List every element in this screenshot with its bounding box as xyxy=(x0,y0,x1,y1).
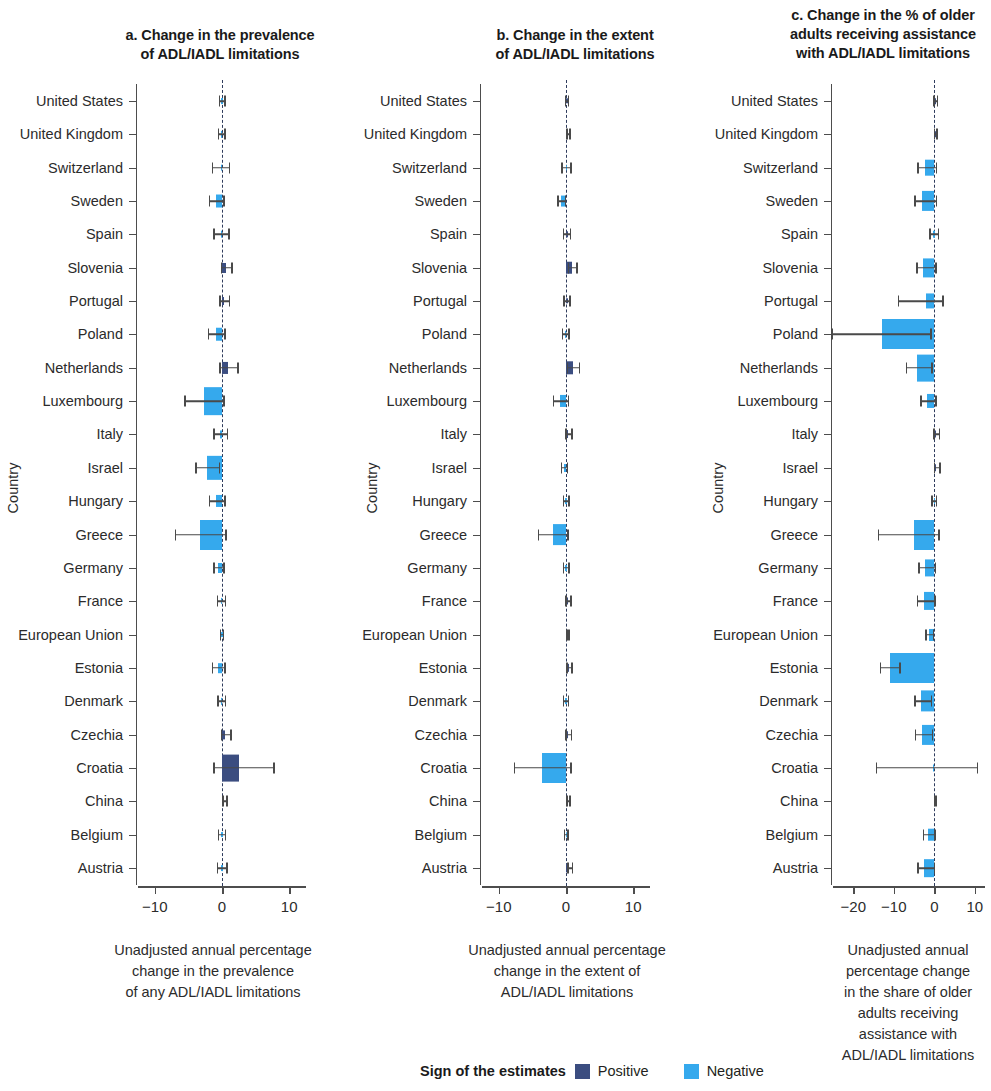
y-axis-label-portugal: Portugal xyxy=(242,294,467,308)
ci-cap xyxy=(932,729,934,740)
panel-b-xlabel-line-1: Unadjusted annual percentage xyxy=(452,940,682,961)
y-axis-tick xyxy=(129,434,136,435)
y-axis-label-european-union: European Union xyxy=(0,628,123,642)
ci-cap xyxy=(569,129,571,140)
y-axis-tick xyxy=(129,635,136,636)
ci-cap xyxy=(212,662,214,673)
ci-line-c-sweden xyxy=(914,200,935,202)
ci-line-c-poland xyxy=(831,334,930,336)
y-axis-tick xyxy=(473,735,480,736)
y-axis-tick xyxy=(129,368,136,369)
y-axis-tick xyxy=(824,168,831,169)
ci-cap xyxy=(935,562,937,573)
ci-cap xyxy=(228,229,230,240)
ci-cap xyxy=(563,562,565,573)
ci-cap xyxy=(227,429,229,440)
ci-cap xyxy=(195,462,197,473)
y-axis-label-hungary: Hungary xyxy=(0,494,123,508)
legend-label-negative: Negative xyxy=(707,1063,764,1079)
ci-cap xyxy=(184,396,186,407)
ci-cap xyxy=(936,496,938,507)
y-axis-tick xyxy=(473,368,480,369)
ci-cap xyxy=(213,429,215,440)
ci-cap xyxy=(208,329,210,340)
y-axis-label-china: China xyxy=(0,794,123,808)
ci-cap xyxy=(224,129,226,140)
ci-cap xyxy=(923,829,925,840)
ci-cap xyxy=(209,496,211,507)
ci-cap xyxy=(538,529,540,540)
y-axis-tick xyxy=(129,801,136,802)
x-axis-tick-label: 0 xyxy=(192,898,252,915)
ci-cap xyxy=(938,529,940,540)
ci-cap xyxy=(557,196,559,207)
ci-cap xyxy=(925,629,927,640)
ci-cap xyxy=(565,596,567,607)
ci-line-c-switzerland xyxy=(917,167,936,169)
panel-a-xlabel-line-3: of any ADL/IADL limitations xyxy=(98,982,328,1003)
ci-cap xyxy=(931,362,933,373)
panel-c-x-axis-line xyxy=(833,886,985,888)
y-axis-tick xyxy=(473,535,480,536)
legend-label-positive: Positive xyxy=(598,1063,649,1079)
ci-line-c-slovenia xyxy=(916,267,935,269)
x-axis-tick xyxy=(853,886,855,894)
ci-cap xyxy=(931,696,933,707)
y-axis-label-poland: Poland xyxy=(593,327,818,341)
legend-swatch-positive-icon xyxy=(575,1064,590,1079)
y-axis-label-portugal: Portugal xyxy=(0,294,123,308)
y-axis-tick xyxy=(129,668,136,669)
y-axis-label-netherlands: Netherlands xyxy=(0,361,123,375)
ci-cap xyxy=(568,629,570,640)
ci-cap xyxy=(920,396,922,407)
ci-cap xyxy=(229,296,231,307)
ci-cap xyxy=(878,529,880,540)
y-axis-tick xyxy=(824,835,831,836)
y-axis-label-hungary: Hungary xyxy=(242,494,467,508)
ci-line-a-netherlands xyxy=(219,367,237,369)
ci-cap xyxy=(220,629,222,640)
ci-cap xyxy=(570,229,572,240)
y-axis-tick xyxy=(824,868,831,869)
ci-cap xyxy=(219,96,221,107)
y-axis-tick xyxy=(129,468,136,469)
y-axis-tick xyxy=(824,535,831,536)
x-axis-tick-label: 10 xyxy=(945,898,991,915)
ci-line-c-portugal xyxy=(898,300,943,302)
y-axis-label-israel: Israel xyxy=(0,461,123,475)
y-axis-tick xyxy=(824,268,831,269)
panel-c-y-axis-line xyxy=(831,84,832,884)
ci-line-c-denmark xyxy=(914,701,931,703)
ci-cap xyxy=(977,762,979,773)
y-axis-tick xyxy=(824,701,831,702)
ci-cap xyxy=(230,729,232,740)
ci-line-b-croatia xyxy=(514,767,570,769)
x-axis-tick-label: 10 xyxy=(259,898,319,915)
ci-cap xyxy=(572,863,574,874)
y-axis-label-denmark: Denmark xyxy=(0,694,123,708)
y-axis-tick xyxy=(824,601,831,602)
ci-cap xyxy=(933,429,935,440)
panel-a-y-axis-line xyxy=(136,84,137,884)
y-axis-label-united-kingdom: United Kingdom xyxy=(0,127,123,141)
panel-b-y-axis-line xyxy=(480,84,481,884)
panel-b-title: b. Change in the extent of ADL/IADL limi… xyxy=(455,26,695,64)
ci-cap xyxy=(567,462,569,473)
y-axis-label-italy: Italy xyxy=(242,427,467,441)
y-axis-tick xyxy=(824,101,831,102)
y-axis-tick xyxy=(824,234,831,235)
ci-cap xyxy=(223,196,225,207)
y-axis-label-austria: Austria xyxy=(593,861,818,875)
ci-cap xyxy=(933,629,935,640)
y-axis-tick xyxy=(473,635,480,636)
ci-cap xyxy=(569,796,571,807)
ci-cap xyxy=(571,662,573,673)
panel-c-title-line-3: with ADL/IADL limitations xyxy=(775,44,991,63)
ci-cap xyxy=(935,262,937,273)
ci-cap xyxy=(568,329,570,340)
x-axis-tick xyxy=(289,886,291,894)
y-axis-label-italy: Italy xyxy=(593,427,818,441)
y-axis-tick xyxy=(473,268,480,269)
y-axis-label-germany: Germany xyxy=(242,561,467,575)
legend-item-positive: Positive xyxy=(575,1063,649,1079)
